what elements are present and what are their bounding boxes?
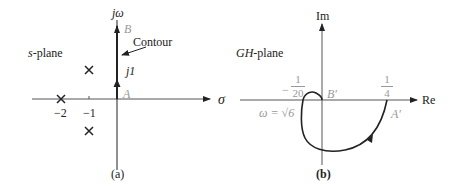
- pole-icon: [85, 66, 93, 74]
- poles: [57, 66, 93, 135]
- point-a-label: A: [123, 88, 130, 100]
- j1-label: j1: [126, 65, 135, 77]
- one-quarter-label: 14: [381, 74, 393, 99]
- pole-icon: [85, 127, 93, 135]
- caption-b: (b): [316, 168, 331, 180]
- sigma-axis-label: σ: [218, 93, 225, 107]
- tick-label-neg1: −1: [83, 107, 96, 119]
- tick-label-neg2: −2: [54, 107, 67, 119]
- gh-plane-label: GH-plane: [236, 47, 283, 59]
- omega-sqrt6-label: ω = √6: [259, 107, 294, 119]
- re-axis-label: Re: [422, 94, 435, 106]
- caption-a: (a): [111, 168, 124, 180]
- jw-axis-label: jω: [112, 7, 124, 19]
- s-plane-axes: [32, 20, 210, 170]
- point-b-prime-label: B′: [327, 88, 337, 100]
- contour-arrow-icon: [114, 79, 121, 87]
- nyquist-curve: [301, 92, 387, 151]
- s-plane-label: s-plane: [28, 47, 63, 59]
- neg-frac-sign: −: [282, 84, 289, 96]
- contour-label: Contour: [133, 36, 172, 48]
- point-b-label: B: [124, 23, 131, 35]
- im-axis-label: Im: [316, 10, 329, 22]
- point-a-prime-label: A′: [391, 108, 401, 120]
- neg-one-twentieth-label: 120: [291, 74, 305, 99]
